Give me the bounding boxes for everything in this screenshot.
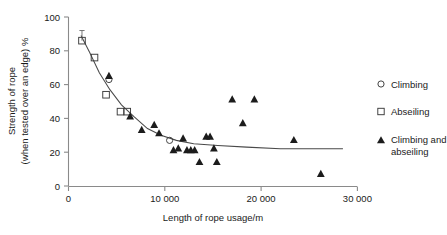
data-point-triangle [250,95,258,102]
legend-item-climbing[interactable]: Climbing [378,79,428,90]
legend-label-climbing-and-abseiling-line1: Climbing and [391,134,446,145]
y-tick-label-20: 20 [49,147,60,158]
data-point-triangle [150,121,158,128]
data-point-triangle [228,95,236,102]
scatter-chart: 100 80 60 40 20 0 Strength of rope (when… [0,0,447,235]
y-tick-label-100: 100 [44,12,60,23]
data-point-triangle [196,158,204,165]
legend-label-climbing: Climbing [391,79,428,90]
y-tick-label-60: 60 [49,79,60,90]
legend-open-circle-icon [378,81,384,87]
x-tick-label-0: 0 [66,193,71,204]
x-axis-ticks [69,187,358,192]
x-axis-title: Length of rope usage/m [163,212,263,223]
data-point-square [117,108,124,115]
legend-item-climbing-and-abseiling[interactable]: Climbing and abseiling [377,134,446,157]
x-axis: 0 10 000 20 000 30 000 Length of rope us… [66,187,372,224]
x-tick-label-20000: 20 000 [247,193,276,204]
y-axis-title-line2: (when tested over an edge) % [19,37,30,164]
data-point-triangle [179,134,187,141]
y-tick-label-80: 80 [49,45,60,56]
series-climbing [106,76,173,143]
data-point-triangle [213,158,221,165]
legend-filled-triangle-icon [377,136,385,143]
plot-data-layer [79,31,343,177]
data-point-triangle [105,72,113,79]
series-abseiling [79,31,131,115]
legend-item-abseiling[interactable]: Abseiling [378,106,430,117]
y-axis-title: Strength of rope (when tested over an ed… [6,37,30,164]
legend-label-abseiling: Abseiling [391,106,430,117]
legend-label-climbing-and-abseiling-line2: abseiling [391,146,429,157]
legend-open-square-icon [378,108,384,114]
data-point-triangle [174,144,182,151]
y-tick-label-0: 0 [55,181,60,192]
chart-svg: 100 80 60 40 20 0 Strength of rope (when… [0,0,447,235]
x-tick-label-10000: 10 000 [150,193,179,204]
data-point-triangle [290,136,298,143]
y-axis-title-line1: Strength of rope [6,67,17,135]
legend: Climbing Abseiling Climbing and abseilin… [377,79,446,158]
data-point-triangle [239,119,247,126]
series-climbing-and-abseiling [105,72,325,177]
y-axis-ticks [64,17,69,186]
y-axis: 100 80 60 40 20 0 [44,12,68,192]
data-point-triangle [317,170,325,177]
y-tick-label-40: 40 [49,113,60,124]
data-point-triangle [138,126,146,133]
trend-line [81,36,343,149]
x-tick-label-30000: 30 000 [343,193,372,204]
data-point-square [103,91,110,98]
